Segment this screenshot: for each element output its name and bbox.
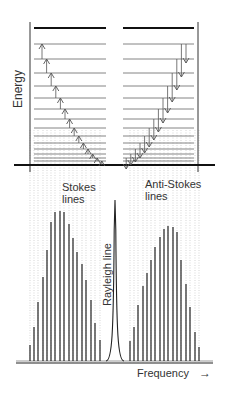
stokes-label-line2: lines [62,193,85,205]
anti-stokes-label-line1: Anti-Stokes [145,178,202,190]
frequency-arrow-icon: → [199,366,211,380]
energy-level-diagram [14,22,215,172]
raman-spectrum-diagram: Energy Stokes lines Anti-Stokes lines Ra… [0,0,229,398]
anti-stokes-label-line2: lines [145,190,168,202]
rayleigh-line-label: Rayleigh line [101,243,113,306]
spectrum-plot [16,200,213,363]
frequency-axis-label: Frequency [137,367,189,379]
energy-axis-label: Energy [11,70,25,108]
stokes-label-line1: Stokes [62,181,96,193]
